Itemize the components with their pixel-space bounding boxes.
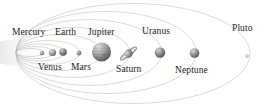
label-saturn: Saturn — [116, 65, 141, 75]
label-uranus: Uranus — [142, 27, 170, 37]
label-neptune: Neptune — [175, 66, 208, 76]
planet-uranus — [155, 47, 165, 57]
planet-pluto — [246, 55, 249, 58]
label-jupiter: Jupiter — [88, 28, 115, 38]
planet-jupiter — [92, 43, 111, 62]
solar-system-diagram: Mercury Earth Jupiter Uranus Pluto Venus… — [0, 0, 272, 108]
planet-mercury — [40, 51, 44, 55]
planet-earth — [59, 48, 67, 56]
label-mercury: Mercury — [12, 28, 45, 38]
label-earth: Earth — [55, 28, 76, 38]
label-mars: Mars — [71, 63, 91, 73]
orbit-canvas — [0, 0, 272, 108]
planet-venus — [49, 49, 56, 56]
planet-neptune — [190, 48, 200, 58]
label-pluto: Pluto — [232, 24, 253, 34]
planet-mars — [77, 51, 82, 56]
label-venus: Venus — [38, 63, 62, 73]
